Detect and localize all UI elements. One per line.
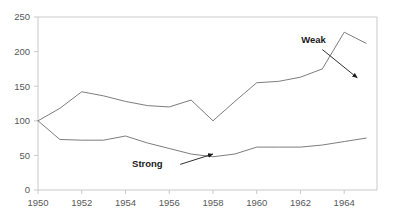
x-tick-label: 1960 [246, 197, 267, 208]
y-tick-label: 250 [14, 11, 30, 22]
x-tick-label: 1954 [115, 197, 136, 208]
data-series-lines [38, 32, 366, 157]
plot-frame [38, 17, 377, 190]
x-tick-label: 1964 [334, 197, 355, 208]
x-tick-label: 1958 [202, 197, 223, 208]
y-axis-tick-labels: 050100150200250 [14, 11, 30, 195]
y-tick-label: 100 [14, 115, 30, 126]
annotation-labels: WeakStrong [132, 34, 327, 169]
annotation-arrow-strong [180, 154, 213, 164]
chart-container: ···· ·· 050100150200250 1950195219541956… [0, 0, 394, 217]
x-tick-label: 1950 [27, 197, 48, 208]
y-tick-label: 0 [25, 184, 30, 195]
x-axis-ticks [38, 190, 344, 194]
x-tick-label: 1956 [159, 197, 180, 208]
y-tick-label: 200 [14, 46, 30, 57]
annotation-label-weak: Weak [301, 34, 326, 45]
y-axis-ticks [34, 17, 38, 190]
x-tick-label: 1962 [290, 197, 311, 208]
annotation-arrow-weak [322, 50, 357, 78]
y-tick-label: 50 [19, 150, 30, 161]
y-tick-label: 150 [14, 81, 30, 92]
series-line-strong [38, 121, 366, 157]
line-chart: 050100150200250 195019521954195619581960… [0, 0, 394, 217]
x-tick-label: 1952 [71, 197, 92, 208]
series-line-weak [38, 32, 366, 121]
annotation-label-strong: Strong [132, 158, 163, 169]
x-axis-tick-labels: 19501952195419561958196019621964 [27, 197, 354, 208]
